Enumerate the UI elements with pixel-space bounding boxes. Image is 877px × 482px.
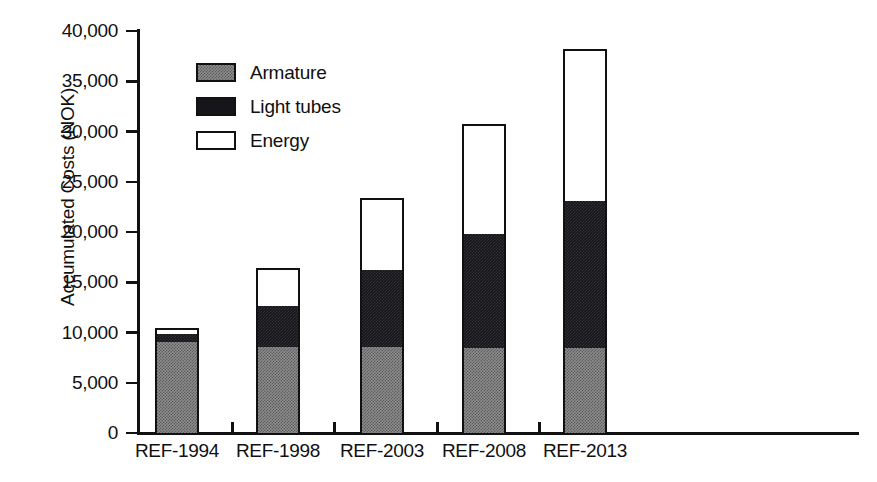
bar-segment-armature — [360, 347, 404, 433]
legend-item-armature[interactable]: Armature — [196, 57, 341, 88]
y-axis-tick — [126, 130, 138, 133]
legend-label-energy: Energy — [250, 130, 309, 152]
y-axis-tick — [126, 80, 138, 83]
bar-segment-armature — [155, 342, 199, 433]
y-axis-tick-label: 5,000 — [0, 372, 118, 394]
bar-ref-1998[interactable] — [256, 268, 300, 433]
x-axis-tick — [538, 422, 541, 433]
y-axis-tick — [126, 181, 138, 184]
y-axis-tick-label: 20,000 — [0, 221, 118, 243]
legend-item-light-tubes[interactable]: Light tubes — [196, 91, 341, 122]
bar-ref-2013[interactable] — [563, 49, 607, 433]
bar-segment-energy — [563, 49, 607, 201]
bar-segment-light-tubes — [155, 334, 199, 341]
y-axis-tick — [126, 432, 138, 435]
bar-segment-light-tubes — [563, 201, 607, 348]
y-axis-tick — [126, 382, 138, 385]
y-axis-tick-label: 25,000 — [0, 171, 118, 193]
bar-ref-2008[interactable] — [462, 124, 506, 433]
y-axis-tick-label: 15,000 — [0, 271, 118, 293]
bar-ref-1994[interactable] — [155, 328, 199, 433]
light-tubes-swatch-icon — [196, 97, 236, 116]
bar-segment-light-tubes — [256, 306, 300, 346]
x-axis-tick — [333, 422, 336, 433]
y-axis-tick-label: 40,000 — [0, 20, 118, 42]
y-axis-tick — [126, 281, 138, 284]
legend-item-energy[interactable]: Energy — [196, 125, 341, 156]
y-axis-tick-label: 30,000 — [0, 121, 118, 143]
bar-segment-armature — [462, 348, 506, 433]
bar-segment-light-tubes — [462, 234, 506, 348]
energy-swatch-icon — [196, 131, 236, 150]
bar-segment-armature — [256, 347, 300, 433]
bar-segment-armature — [563, 348, 607, 433]
stacked-bar-chart: Accumulated Costs (NOK) 05,00010,00015,0… — [0, 0, 877, 482]
y-axis-tick — [126, 231, 138, 234]
bar-segment-energy — [462, 124, 506, 234]
y-axis-tick-label: 35,000 — [0, 70, 118, 92]
legend-label-armature: Armature — [250, 62, 327, 84]
bar-segment-energy — [360, 198, 404, 270]
armature-swatch-icon — [196, 63, 236, 82]
bar-segment-light-tubes — [360, 270, 404, 346]
bar-segment-energy — [256, 268, 300, 306]
y-axis-tick — [126, 331, 138, 334]
chart-legend: Armature Light tubes Energy — [196, 57, 341, 159]
x-axis-tick-label: REF-2013 — [505, 440, 665, 462]
y-axis-tick-label: 10,000 — [0, 322, 118, 344]
bar-ref-2003[interactable] — [360, 198, 404, 433]
legend-label-light-tubes: Light tubes — [250, 96, 341, 118]
y-axis-tick — [126, 30, 138, 33]
x-axis-tick — [231, 422, 234, 433]
x-axis-tick — [436, 422, 439, 433]
